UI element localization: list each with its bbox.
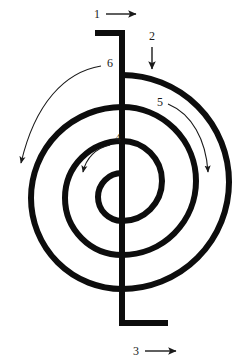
spiral-coil-body xyxy=(31,75,229,289)
spiral-coil-path xyxy=(31,75,229,289)
label-5-text: 5 xyxy=(157,95,163,109)
spiral-coil-diagram: 1 2 3 4 5 6 xyxy=(0,0,247,361)
annotation-3-group: 3 xyxy=(133,344,176,358)
label-3-text: 3 xyxy=(133,344,139,358)
annotation-2-group: 2 xyxy=(149,29,155,69)
label-4-text: 4 xyxy=(115,131,121,145)
diagram-canvas: 1 2 3 4 5 6 xyxy=(0,0,247,361)
annotation-1-group: 1 xyxy=(94,7,136,21)
label-6-text: 6 xyxy=(107,56,113,70)
label-2-text: 2 xyxy=(149,29,155,43)
label-1-text: 1 xyxy=(94,7,100,21)
